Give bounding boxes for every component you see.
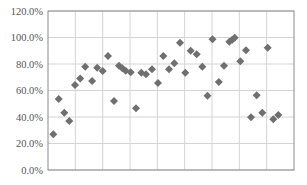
diamond-marker [209, 35, 217, 43]
diamond-marker [242, 46, 250, 54]
diamond-marker [65, 117, 73, 125]
diamond-marker [247, 113, 255, 121]
diamond-marker [258, 109, 266, 117]
diamond-marker [159, 52, 167, 60]
scatter-chart: 0.0%20.0%40.0%60.0%80.0%100.0%120.0% [0, 0, 307, 185]
y-tick-label: 0.0% [21, 165, 43, 176]
diamond-marker [253, 91, 261, 99]
diamond-marker [170, 59, 178, 67]
data-points [49, 34, 282, 139]
diamond-marker [215, 78, 223, 86]
gridlines [48, 11, 294, 170]
y-tick-label: 60.0% [16, 85, 43, 96]
diamond-marker [76, 74, 84, 82]
y-tick-label: 100.0% [11, 32, 44, 43]
y-axis-tick-labels: 0.0%20.0%40.0%60.0%80.0%100.0%120.0% [11, 6, 44, 176]
diamond-marker [55, 95, 63, 103]
diamond-marker [132, 104, 140, 112]
y-tick-label: 40.0% [16, 112, 43, 123]
diamond-marker [181, 69, 189, 77]
diamond-marker [220, 62, 228, 70]
diamond-marker [154, 79, 162, 87]
diamond-marker [110, 97, 118, 105]
diamond-marker [165, 65, 173, 73]
diamond-marker [104, 52, 112, 60]
diamond-marker [88, 77, 96, 85]
diamond-marker [71, 81, 79, 89]
diamond-marker [148, 65, 156, 73]
diamond-marker [204, 92, 212, 100]
y-tick-label: 120.0% [11, 6, 44, 17]
y-tick-label: 80.0% [16, 59, 43, 70]
diamond-marker [264, 44, 272, 52]
diamond-marker [60, 109, 68, 117]
diamond-marker [176, 39, 184, 47]
diamond-marker [49, 130, 57, 138]
y-tick-label: 20.0% [16, 138, 43, 149]
